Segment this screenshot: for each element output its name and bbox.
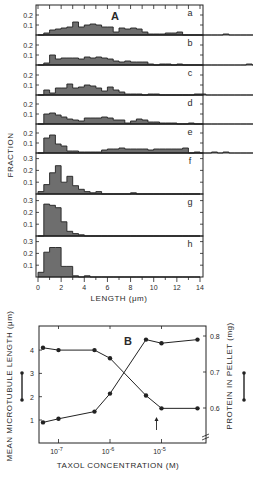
x-tick-label: 6 [105, 284, 109, 291]
data-point [41, 346, 45, 350]
y-tick-label: 0.2 [23, 42, 33, 49]
y-tick-label: 0.1 [23, 221, 33, 228]
histogram-panel-f: 0.10.20.3f [23, 153, 203, 194]
panel-b-ylabel-right: PROTEIN IN PELLET (mg) [225, 322, 234, 429]
panel-letter: g [187, 197, 192, 207]
panel-letter: b [187, 38, 192, 48]
panel-a-xlabel: LENGTH (μm) [91, 294, 148, 303]
histogram-panel-c: 0.10.2c [23, 65, 253, 95]
panel-letter: d [187, 98, 192, 108]
y-tick-label: 0.1 [23, 179, 33, 186]
panel-letter-B: B [124, 335, 132, 347]
right-y-tick-label: 0.6 [210, 405, 220, 412]
data-point [195, 406, 199, 410]
x-tick-label: 12 [173, 284, 181, 291]
y-tick-label: 0.2 [23, 130, 33, 137]
legend-marker-length [20, 371, 24, 402]
histogram-panel-b: 0.10.2b [23, 35, 253, 65]
series-line-protein [43, 340, 198, 423]
histogram-bars [38, 22, 253, 35]
histogram-bars [38, 204, 200, 236]
histogram-bars [38, 135, 253, 153]
y-tick-label: 0.1 [23, 262, 33, 269]
data-point [195, 337, 199, 341]
data-point [144, 337, 148, 341]
right-y-tick-label: 0.8 [210, 333, 220, 340]
x-tick-label: 4 [82, 284, 86, 291]
x-tick-label: 2 [59, 284, 63, 291]
right-y-tick-label: 0.7 [210, 369, 220, 376]
y-tick-label: 0.3 [23, 197, 33, 204]
data-point [144, 393, 148, 397]
panel-a-ylabel: FRACTION [6, 133, 15, 178]
y-tick-label: 0.3 [23, 155, 33, 162]
data-point [41, 420, 45, 424]
left-y-tick-label: 2 [30, 394, 34, 401]
panel-letter: c [188, 68, 193, 78]
data-point [108, 356, 112, 360]
panel-a-histograms: 0.10.2a0.10.2b0.10.2c0.10.2d0.10.2e0.10.… [23, 5, 253, 291]
y-tick-label: 0.1 [23, 111, 33, 118]
left-y-tick-label: 3 [30, 370, 34, 377]
y-tick-label: 0.2 [23, 250, 33, 257]
histogram-panel-g: 0.10.20.3g [23, 194, 203, 236]
y-tick-label: 0.1 [23, 22, 33, 29]
left-y-tick-label: 4 [30, 347, 34, 354]
data-point [159, 341, 163, 345]
x-tick-label: 10-7 [50, 446, 63, 455]
y-tick-label: 0.2 [23, 167, 33, 174]
x-tick-label: 10-6 [102, 446, 115, 455]
panel-letter: f [189, 156, 192, 166]
x-tick-label: 10 [150, 284, 158, 291]
figure: 0.10.2a0.10.2b0.10.2c0.10.2d0.10.2e0.10.… [0, 0, 253, 481]
data-point [56, 348, 60, 352]
y-tick-label: 0.2 [23, 12, 33, 19]
histogram-bars [38, 84, 253, 95]
y-tick-label: 0.2 [23, 101, 33, 108]
panel-b-ylabel-left: MEAN MICROTUBULE LENGTH (μm) [5, 310, 14, 461]
panel-b-line-chart: B12340.60.70.810-710-610-5 [20, 326, 246, 455]
histogram-panel-a: 0.10.2a [23, 5, 253, 35]
data-point [159, 406, 163, 410]
panel-letter: h [187, 239, 192, 249]
histogram-bars [38, 55, 253, 65]
left-y-tick-label: 1 [30, 417, 34, 424]
histogram-panel-e: 0.10.2e [23, 124, 253, 153]
panel-b-frame [39, 326, 206, 443]
histogram-panel-h: 0.10.20.3h [23, 236, 203, 277]
panel-letter: e [187, 127, 192, 137]
data-point [92, 409, 96, 413]
x-tick-label: 10-5 [153, 446, 166, 455]
y-tick-label: 0.2 [23, 209, 33, 216]
data-point [108, 391, 112, 395]
legend-marker-protein [242, 371, 246, 402]
histogram-bars [38, 113, 253, 124]
panel-letter: a [187, 8, 192, 18]
y-tick-label: 0.1 [23, 140, 33, 147]
y-tick-label: 0.1 [23, 52, 33, 59]
data-point [92, 348, 96, 352]
panel-letter-A: A [111, 10, 119, 22]
x-tick-label: 0 [36, 284, 40, 291]
y-tick-label: 0.3 [23, 238, 33, 245]
histogram-bars [38, 248, 200, 278]
histogram-panel-d: 0.10.2d [23, 95, 253, 124]
y-tick-label: 0.2 [23, 72, 33, 79]
data-point [56, 417, 60, 421]
histogram-bars [38, 166, 200, 194]
y-tick-label: 0.1 [23, 82, 33, 89]
x-tick-label: 8 [129, 284, 133, 291]
panel-b-xlabel: TAXOL CONCENTRATION (M) [57, 461, 179, 470]
x-tick-label: 14 [196, 284, 204, 291]
